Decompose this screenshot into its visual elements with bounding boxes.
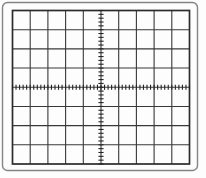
graticule-svg — [0, 0, 206, 178]
oscilloscope-screen-figure — [0, 0, 206, 178]
